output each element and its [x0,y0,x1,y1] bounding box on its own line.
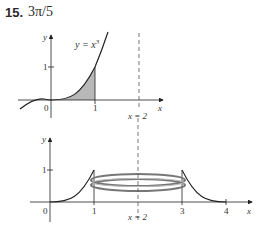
svg-text:x: x [157,103,162,113]
svg-text:x = 2: x = 2 [127,212,148,222]
svg-text:x = 2: x = 2 [127,111,148,121]
svg-text:0: 0 [43,206,48,216]
svg-text:1: 1 [92,206,97,216]
svg-text:y: y [42,32,47,42]
figures: y 1 0 1 x y = x3 x = 2 y 1 0 1 3 4 [0,0,269,234]
bottom-graph: y 1 0 1 3 4 x x = 2 [30,118,252,222]
curve-label: y = x3 [74,38,100,50]
svg-text:x: x [246,206,251,216]
svg-text:0: 0 [44,103,49,113]
svg-text:1: 1 [42,165,47,175]
svg-text:1: 1 [93,103,98,113]
svg-text:4: 4 [224,206,229,216]
svg-text:1: 1 [43,62,48,72]
svg-text:3: 3 [180,206,185,216]
top-graph: y 1 0 1 x y = x3 x = 2 [18,32,163,121]
svg-text:y: y [41,134,46,144]
